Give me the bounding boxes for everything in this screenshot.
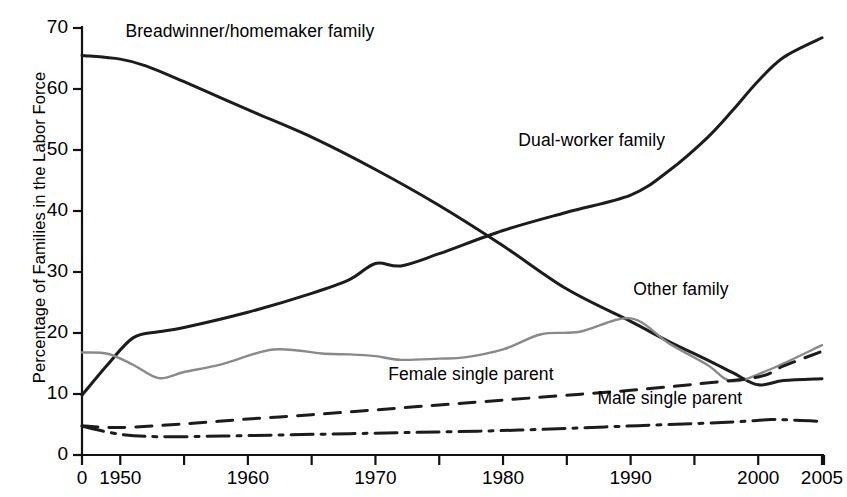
series-label-female-single-parent: Female single parent: [388, 364, 553, 385]
y-tick-label: 70: [22, 16, 68, 38]
x-tick-label: 1960: [212, 467, 284, 489]
y-tick-label: 0: [22, 443, 68, 465]
y-tick-label: 30: [22, 260, 68, 282]
series-label-breadwinner-homemaker-family: Breadwinner/homemaker family: [125, 21, 374, 42]
x-tick-label: 1950: [84, 467, 156, 489]
x-tick-label: 1970: [339, 467, 411, 489]
x-tick-label: 1990: [595, 467, 667, 489]
y-tick-label: 20: [22, 321, 68, 343]
x-tick-label: 2000: [722, 467, 794, 489]
y-tick-label: 10: [22, 382, 68, 404]
series-line-dual-worker-family: [82, 38, 822, 395]
series-label-other-family: Other family: [633, 279, 729, 300]
y-tick-label: 60: [22, 77, 68, 99]
y-tick-label: 50: [22, 138, 68, 160]
series-line-breadwinner-homemaker-family: [82, 55, 822, 385]
y-tick-label: 40: [22, 199, 68, 221]
series-label-dual-worker-family: Dual-worker family: [518, 130, 665, 151]
x-tick-label: 2005: [786, 467, 847, 489]
x-tick-label: 1980: [467, 467, 539, 489]
series-label-male-single-parent: Male single parent: [597, 388, 742, 409]
